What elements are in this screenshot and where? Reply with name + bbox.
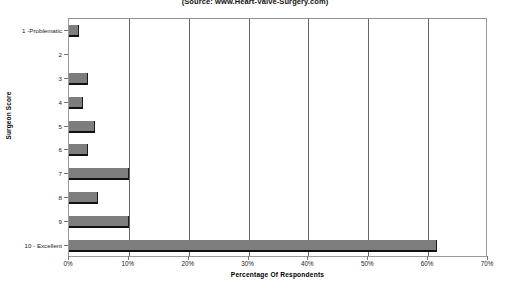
x-axis-tick-label: 0% — [63, 260, 72, 268]
bar — [69, 192, 98, 204]
bar-chart: (Source: www.Heart-Valve-Surgery.com) Su… — [0, 0, 510, 290]
y-axis-tick-label: 10 - Excellent — [25, 242, 63, 249]
bar-row — [69, 49, 486, 61]
bar — [69, 240, 437, 252]
x-axis-tick — [128, 256, 129, 260]
chart-title: (Source: www.Heart-Valve-Surgery.com) — [0, 0, 510, 7]
y-axis-tick-label: 5 — [59, 122, 62, 129]
bar-row — [69, 192, 486, 204]
y-axis-tick-label: 1 -Problematic — [22, 26, 62, 33]
bar-row — [69, 25, 486, 37]
x-axis-tick — [367, 256, 368, 260]
bar-row — [69, 240, 486, 252]
plot-area — [68, 18, 487, 257]
x-axis-tick — [188, 256, 189, 260]
y-axis-tick-label: 7 — [59, 170, 62, 177]
x-axis-tick-label: 60% — [421, 260, 434, 268]
y-axis-tick-label: 2 — [59, 50, 62, 57]
bar-row — [69, 73, 486, 85]
x-axis-tick — [248, 256, 249, 260]
y-axis-tick-label: 4 — [59, 98, 62, 105]
bar — [69, 144, 88, 156]
x-axis-tick-label: 50% — [361, 260, 374, 268]
y-axis-tick-label: 3 — [59, 74, 62, 81]
x-axis-tick-label: 70% — [481, 260, 494, 268]
bar-row — [69, 168, 486, 180]
x-axis-tick-label: 30% — [241, 260, 254, 268]
bar-row — [69, 144, 486, 156]
x-axis-tick — [487, 256, 488, 260]
x-axis-tick-label: 40% — [301, 260, 314, 268]
y-axis-tick-label: 9 — [59, 218, 62, 225]
bar-row — [69, 97, 486, 109]
y-axis-labels: 1 -Problematic2345678910 - Excellent — [0, 18, 66, 257]
bar — [69, 73, 88, 85]
x-axis-tick-label: 10% — [122, 260, 135, 268]
bars-layer — [69, 19, 486, 256]
x-axis-title: Percentage Of Respondents — [68, 271, 487, 278]
x-axis-tick — [427, 256, 428, 260]
x-axis-tick — [307, 256, 308, 260]
x-axis-tick — [68, 256, 69, 260]
y-axis-tick-label: 8 — [59, 194, 62, 201]
y-axis-tick-label: 6 — [59, 146, 62, 153]
bar — [69, 97, 83, 109]
bar — [69, 25, 79, 37]
bar — [69, 121, 95, 133]
bar-row — [69, 216, 486, 228]
bar-row — [69, 121, 486, 133]
bar — [69, 216, 129, 228]
bar — [69, 168, 129, 180]
x-axis-tick-label: 20% — [181, 260, 194, 268]
